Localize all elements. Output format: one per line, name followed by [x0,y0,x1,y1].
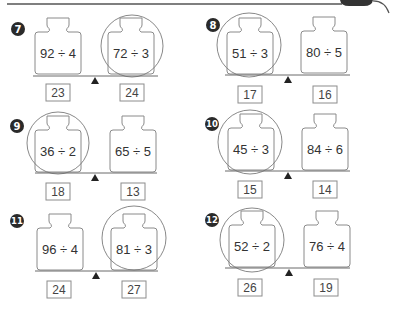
problem-7: 7 92 ÷ 4 72 ÷ 3 23 24 [11,15,163,101]
problem-12: 12 52 ÷ 2 76 ÷ 4 26 19 [205,208,350,296]
weight-expression: 51 ÷ 3 [232,46,268,61]
page-header [7,0,389,13]
answer-box-left[interactable]: 23 [46,84,70,101]
problem-number: 8 [210,20,217,31]
weight-left[interactable]: 36 ÷ 2 [35,116,81,172]
problem-8: 8 51 ÷ 3 80 ÷ 5 17 16 [206,13,350,103]
weight-right[interactable]: 76 ÷ 4 [304,211,350,267]
problem-number: 9 [14,121,21,132]
weight-right[interactable]: 81 ÷ 3 [111,214,157,270]
fulcrum-triangle-icon [285,269,293,276]
weight-expression: 76 ÷ 4 [309,239,345,254]
answer-value: 16 [318,88,332,102]
answer-value: 26 [243,281,257,295]
answer-value: 24 [52,283,66,297]
answer-value: 19 [319,281,333,295]
weight-expression: 72 ÷ 3 [113,46,149,61]
answer-value: 13 [126,185,140,199]
weight-left[interactable]: 45 ÷ 3 [228,114,274,170]
answer-box-left[interactable]: 26 [238,279,262,296]
weight-expression: 65 ÷ 5 [115,144,151,159]
answer-box-left[interactable]: 17 [238,86,262,103]
weight-left[interactable]: 92 ÷ 4 [35,18,81,74]
answer-box-left[interactable]: 15 [238,181,262,198]
problem-number: 7 [15,24,22,35]
weight-expression: 80 ÷ 5 [306,45,342,60]
problem-number: 12 [206,215,218,225]
answer-value: 15 [243,183,257,197]
answer-box-right[interactable]: 14 [313,181,337,198]
answer-value: 27 [127,283,141,297]
answer-box-right[interactable]: 27 [122,281,146,298]
weight-left[interactable]: 52 ÷ 2 [229,211,275,267]
fulcrum-triangle-icon [91,77,99,84]
weight-expression: 81 ÷ 3 [116,242,152,257]
fulcrum-triangle-icon [92,272,100,279]
weight-right[interactable]: 80 ÷ 5 [301,17,347,73]
weight-left[interactable]: 51 ÷ 3 [227,18,273,74]
answer-box-right[interactable]: 24 [120,84,144,101]
answer-value: 24 [125,86,139,100]
answer-box-right[interactable]: 19 [314,279,338,296]
weight-expression: 96 ÷ 4 [42,242,78,257]
weight-expression: 92 ÷ 4 [40,46,76,61]
worksheet: 7 92 ÷ 4 72 ÷ 3 23 24 8 51 ÷ 3 80 [0,0,395,310]
weight-expression: 45 ÷ 3 [233,142,269,157]
problem-9: 9 36 ÷ 2 65 ÷ 5 18 13 [10,112,157,200]
header-curve [373,1,389,13]
problem-10: 10 45 ÷ 3 84 ÷ 6 15 14 [205,110,350,198]
answer-value: 17 [243,88,257,102]
answer-box-right[interactable]: 13 [121,183,145,200]
weight-expression: 52 ÷ 2 [234,239,270,254]
problem-number: 10 [206,119,218,129]
weight-expression: 36 ÷ 2 [40,144,76,159]
answer-box-left[interactable]: 24 [47,281,71,298]
weight-left[interactable]: 96 ÷ 4 [37,214,83,270]
fulcrum-triangle-icon [284,76,292,83]
answer-value: 23 [51,86,65,100]
problem-11: 11 96 ÷ 4 81 ÷ 3 24 27 [10,206,166,298]
weight-right[interactable]: 72 ÷ 3 [108,18,154,74]
weight-right[interactable]: 65 ÷ 5 [110,116,156,172]
weight-right[interactable]: 84 ÷ 6 [302,114,348,170]
problem-number: 11 [11,216,23,226]
fulcrum-triangle-icon [91,174,99,181]
weight-expression: 84 ÷ 6 [307,142,343,157]
fulcrum-triangle-icon [284,172,292,179]
answer-value: 18 [51,185,65,199]
answer-box-left[interactable]: 18 [46,183,70,200]
answer-box-right[interactable]: 16 [313,86,337,103]
header-tab [340,0,373,6]
answer-value: 14 [318,183,332,197]
